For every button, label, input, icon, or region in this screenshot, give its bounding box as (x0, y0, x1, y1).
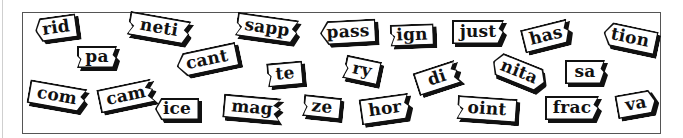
tile-label: pa (85, 48, 108, 67)
word-fragment-tile-te[interactable]: te (266, 60, 304, 87)
tile-label: ign (396, 25, 428, 45)
tile-face: oint (458, 97, 516, 122)
tile-label: te (275, 64, 296, 85)
tile-face: sa (567, 62, 604, 83)
word-fragment-tile-pa[interactable]: pa (77, 46, 117, 68)
word-fragment-tile-sa[interactable]: sa (565, 60, 605, 84)
word-fragment-tile-hor[interactable]: hor (358, 93, 411, 126)
word-fragment-tile-pass[interactable]: pass (319, 19, 376, 46)
tile-label: oint (467, 98, 507, 120)
tile-face: pass (321, 20, 375, 44)
word-fragment-tile-ice[interactable]: ice (155, 98, 199, 120)
word-fragment-tile-just[interactable]: just (452, 20, 504, 44)
tile-label: rid (41, 17, 71, 40)
tile-label: ice (163, 100, 191, 119)
tile-label: va (624, 93, 648, 115)
tile-label: hor (367, 97, 403, 120)
tile-face: ice (157, 100, 198, 119)
left-edge-line (2, 0, 3, 138)
tile-label: just (460, 23, 497, 42)
word-fragment-tile-frac[interactable]: frac (545, 96, 599, 120)
tile-face: just (454, 22, 503, 43)
tile-label: frac (553, 99, 591, 118)
tile-face: ign (391, 25, 433, 45)
word-fragment-tile-ign[interactable]: ign (390, 23, 435, 47)
tile-label: ze (311, 96, 334, 117)
tile-face: pa (79, 48, 116, 67)
tile-label: ry (351, 59, 374, 82)
word-fragment-tile-mag[interactable]: mag (222, 94, 282, 123)
word-fragment-tile-oint[interactable]: oint (456, 95, 518, 123)
tile-face: frac (547, 98, 598, 119)
tile-label: mag (231, 97, 274, 120)
tile-face: te (268, 62, 303, 86)
word-fragment-tile-ze[interactable]: ze (302, 94, 342, 120)
tile-face: ze (304, 96, 341, 119)
word-fragment-tile-rid[interactable]: rid (34, 13, 79, 43)
tile-label: pass (326, 21, 370, 42)
tile-label: sa (575, 63, 596, 82)
